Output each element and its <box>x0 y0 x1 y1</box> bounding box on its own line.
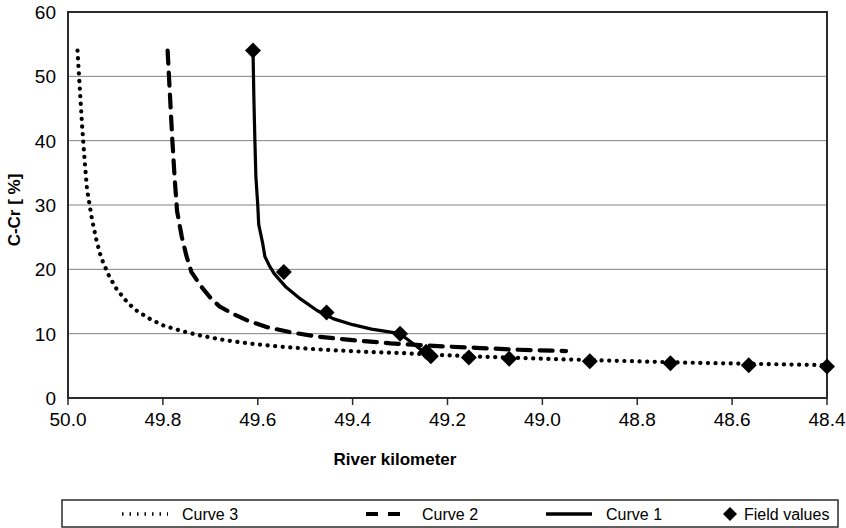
y-tick-label: 60 <box>35 2 56 23</box>
x-tick-label: 49.2 <box>429 409 466 430</box>
y-tick-label: 10 <box>35 324 56 345</box>
x-axis-title: River kilometer <box>334 450 457 469</box>
legend-label: Curve 3 <box>182 506 238 523</box>
x-axis-ticks <box>68 398 827 405</box>
x-tick-label: 49.0 <box>524 409 561 430</box>
y-axis-tick-labels: 0102030405060 <box>35 2 56 409</box>
legend-label: Field values <box>744 506 829 523</box>
x-tick-label: 48.6 <box>714 409 751 430</box>
x-tick-label: 49.4 <box>334 409 371 430</box>
legend-label: Curve 2 <box>422 506 478 523</box>
x-tick-label: 49.6 <box>239 409 276 430</box>
legend-label: Curve 1 <box>606 506 662 523</box>
x-tick-label: 48.8 <box>619 409 656 430</box>
y-axis-title: C-Cr [ %] <box>5 174 24 247</box>
x-axis-tick-labels: 50.049.849.649.449.249.048.848.648.4 <box>50 409 846 430</box>
y-tick-label: 0 <box>45 388 56 409</box>
x-tick-label: 48.4 <box>809 409 846 430</box>
chart-canvas: 50.049.849.649.449.249.048.848.648.4 010… <box>0 0 846 528</box>
y-tick-label: 50 <box>35 66 56 87</box>
x-tick-label: 49.8 <box>144 409 181 430</box>
y-tick-label: 30 <box>35 195 56 216</box>
y-tick-label: 20 <box>35 259 56 280</box>
y-tick-label: 40 <box>35 131 56 152</box>
x-tick-label: 50.0 <box>50 409 87 430</box>
chart-figure: 50.049.849.649.449.249.048.848.648.4 010… <box>0 0 846 528</box>
